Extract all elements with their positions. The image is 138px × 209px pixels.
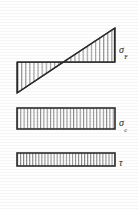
shear-stress-diagram [17,153,115,166]
stress-diagram-canvas [0,0,138,209]
compressive-stress-diagram [17,108,115,129]
bending-stress-diagram [17,28,115,93]
shear-stress-label: τ [119,153,123,172]
compressive-stress-label: σc [119,113,127,132]
bending-stress-label: σF [119,40,128,59]
compressive-stress-subscript: c [124,126,127,133]
bending-stress-subscript: F [124,53,128,60]
compressive-stress-block [17,108,115,129]
shear-stress-symbol: τ [119,157,123,168]
stress-distribution-figure: σF σc τ [0,0,138,209]
shear-stress-block [17,153,115,166]
